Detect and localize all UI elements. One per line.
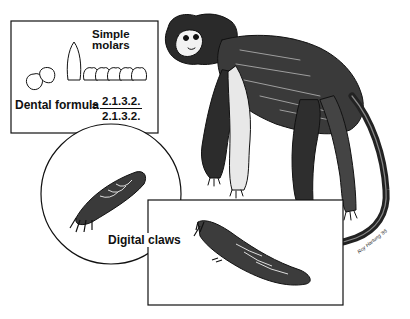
digital-claws-label: Digital claws	[106, 233, 183, 247]
simple-molars-line2: molars	[92, 39, 130, 51]
foot-panel	[148, 200, 343, 305]
dental-formula-fraction: 2.1.3.2. 2.1.3.2.	[100, 95, 142, 122]
dental-formula-equals: =	[92, 100, 98, 112]
dental-formula-label: Dental formula	[15, 98, 99, 112]
dental-formula-upper: 2.1.3.2.	[100, 95, 142, 109]
illustration-canvas	[0, 0, 410, 319]
monkey-hind-leg-left	[292, 100, 320, 214]
simple-molars-label: Simple molars	[92, 29, 130, 51]
molar-tooth	[131, 68, 146, 80]
dental-formula-lower: 2.1.3.2.	[100, 109, 142, 122]
